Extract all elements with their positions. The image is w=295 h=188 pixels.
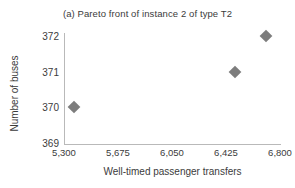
x-tick-label: 6,800 [268, 147, 292, 158]
x-tick-label: 5,300 [52, 147, 76, 158]
x-tick-label: 5,675 [106, 147, 130, 158]
y-axis-title: Number of buses [9, 34, 20, 154]
x-tick-label: 6,425 [214, 147, 238, 158]
y-tick-label: 371 [42, 66, 59, 77]
y-tick-label: 372 [42, 31, 59, 42]
x-tick-label: 6,050 [160, 147, 184, 158]
y-tick-label: 370 [42, 102, 59, 113]
chart-figure: (a) Pareto front of instance 2 of type T… [0, 0, 295, 188]
x-axis-title: Well-timed passenger transfers [64, 166, 281, 177]
y-axis-tick-labels: 369370371372 [26, 0, 59, 188]
plot-area [64, 30, 280, 145]
